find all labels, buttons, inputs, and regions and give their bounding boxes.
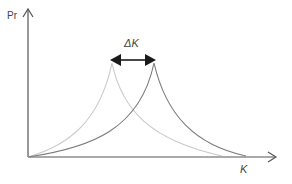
delta-k-label: ΔK	[124, 38, 139, 49]
light-resonance-curve	[28, 63, 222, 157]
resonance-diagram	[0, 0, 292, 184]
x-axis-label: K	[240, 164, 247, 175]
y-axis-label: Pr	[7, 11, 17, 21]
